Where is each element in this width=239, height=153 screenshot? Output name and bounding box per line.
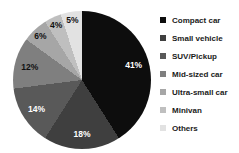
legend-swatch-icon xyxy=(160,89,166,95)
legend-item: Mid-sized car xyxy=(160,65,228,83)
legend-label: Others xyxy=(172,124,198,133)
legend-item: Minivan xyxy=(160,101,228,119)
slice-label: 6% xyxy=(34,31,46,41)
legend-item: Others xyxy=(160,119,228,137)
legend: Compact carSmall vehicleSUV/PickupMid-si… xyxy=(160,11,228,137)
slice-label: 18% xyxy=(73,129,90,139)
legend-label: Mid-sized car xyxy=(172,70,223,79)
slice-label: 14% xyxy=(28,104,45,114)
pie-chart-figure: Compact carSmall vehicleSUV/PickupMid-si… xyxy=(0,0,239,153)
legend-swatch-icon xyxy=(160,35,166,41)
legend-label: Compact car xyxy=(172,16,220,25)
legend-item: SUV/Pickup xyxy=(160,47,228,65)
legend-swatch-icon xyxy=(160,71,166,77)
legend-label: Ultra-small car xyxy=(172,88,228,97)
legend-label: SUV/Pickup xyxy=(172,52,217,61)
legend-item: Ultra-small car xyxy=(160,83,228,101)
legend-item: Small vehicle xyxy=(160,29,228,47)
slice-label: 4% xyxy=(50,20,62,30)
legend-swatch-icon xyxy=(160,107,166,113)
slice-label: 41% xyxy=(125,60,142,70)
legend-item: Compact car xyxy=(160,11,228,29)
legend-swatch-icon xyxy=(160,17,166,23)
slice-label: 12% xyxy=(21,62,38,72)
legend-label: Small vehicle xyxy=(172,34,223,43)
legend-swatch-icon xyxy=(160,125,166,131)
legend-label: Minivan xyxy=(172,106,202,115)
slice-label: 5% xyxy=(66,15,78,25)
legend-swatch-icon xyxy=(160,53,166,59)
